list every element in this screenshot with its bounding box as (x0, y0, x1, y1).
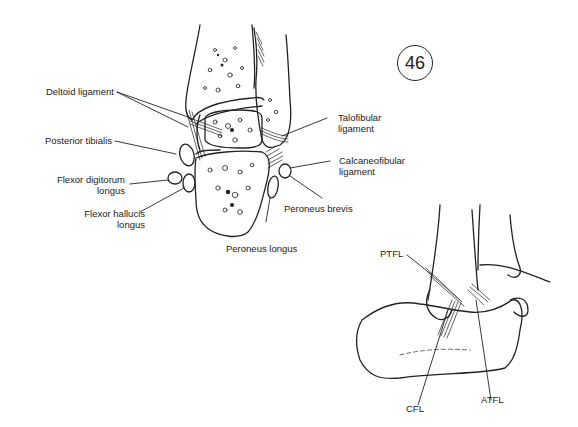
label-ptfl: PTFL (380, 248, 403, 259)
ankle-anatomy-figure: 46 Deltoid ligament Posterior tibialis F… (0, 0, 578, 427)
label-flexor-hallucis-longus: Flexor hallucis longus (40, 208, 145, 230)
label-talofibular-ligament: Talofibular ligament (338, 112, 381, 134)
figure-number-badge: 46 (397, 45, 433, 81)
label-peroneus-longus: Peroneus longus (226, 243, 297, 254)
label-cfl: CFL (406, 403, 424, 414)
label-peroneus-brevis: Peroneus brevis (284, 203, 353, 214)
label-atfl: ATFL (481, 394, 504, 405)
label-deltoid-ligament: Deltoid ligament (20, 86, 114, 97)
label-flexor-digitorum-longus: Flexor digitorum longus (30, 174, 125, 196)
label-posterior-tibialis: Posterior tibialis (20, 135, 112, 146)
figure-number: 46 (405, 53, 425, 74)
label-calcaneofibular-ligament: Calcaneofibular ligament (339, 155, 405, 177)
